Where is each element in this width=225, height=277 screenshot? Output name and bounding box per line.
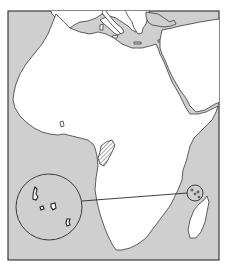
locator-island-2 (194, 193, 196, 195)
mayotte (66, 219, 70, 226)
anjouan (51, 203, 56, 210)
comoros-inset (16, 174, 82, 240)
africa-locator-map (0, 0, 225, 277)
locator-island-4 (198, 196, 200, 198)
locator-island-3 (197, 191, 199, 193)
sardinia (100, 24, 103, 30)
moheli (40, 206, 44, 210)
crete (134, 42, 141, 44)
locator-island-1 (191, 189, 193, 191)
bioko-island (60, 121, 64, 127)
